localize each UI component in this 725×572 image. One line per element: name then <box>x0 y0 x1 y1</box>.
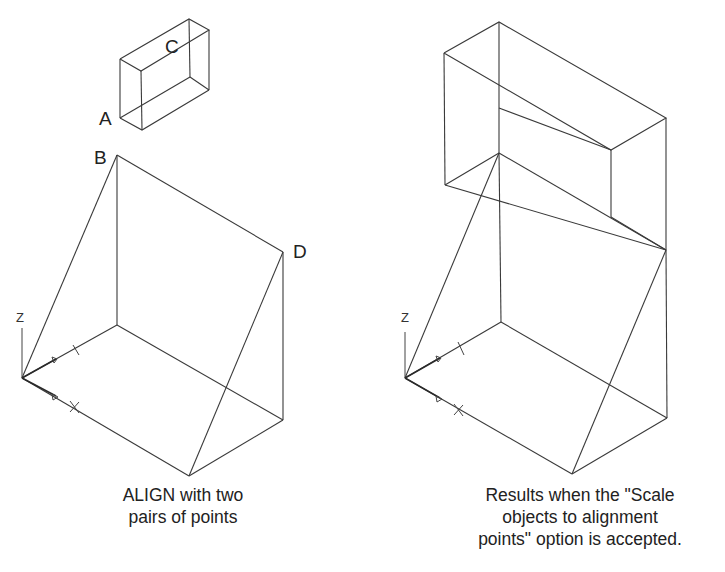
point-label-b: B <box>94 148 107 167</box>
left-caption-line-2: pairs of points <box>88 506 278 528</box>
left-caption-line-1: ALIGN with two <box>88 484 278 506</box>
right-wedge-wireframe <box>405 153 667 474</box>
right-ucs-icon <box>405 332 464 416</box>
left-z-axis-label: Z <box>16 311 24 324</box>
right-caption-line-3: points" option is accepted. <box>440 528 720 550</box>
right-caption: Results when the "Scale objects to align… <box>440 484 720 550</box>
right-z-axis-label: Z <box>401 311 409 324</box>
left-caption: ALIGN with two pairs of points <box>88 484 278 528</box>
point-label-d: D <box>293 242 307 261</box>
point-label-c: C <box>165 37 179 56</box>
right-caption-line-2: objects to alignment <box>440 506 720 528</box>
left-wedge-wireframe <box>22 155 283 476</box>
scaled-box-wireframe <box>444 22 666 250</box>
point-label-a: A <box>99 109 112 128</box>
right-caption-line-1: Results when the "Scale <box>440 484 720 506</box>
left-ucs-icon <box>22 328 79 413</box>
